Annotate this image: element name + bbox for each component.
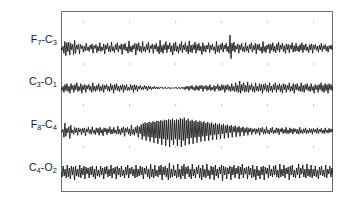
channel-label-f7-c3-sub2: 3 xyxy=(53,38,57,47)
channel-label-c4-o2-mid: -O xyxy=(41,161,53,173)
channel-label-f8-c4-sub1: 8 xyxy=(37,123,41,132)
channel-label-c3-o1: C3-O1 xyxy=(5,76,57,87)
channel-label-f8-c4: F8-C4 xyxy=(5,119,57,130)
channel-label-c4-o2: C4-O2 xyxy=(5,162,57,173)
channel-label-c4-o2-main: C xyxy=(29,161,37,173)
channel-label-f7-c3: F7-C3 xyxy=(5,34,57,45)
channel-label-c4-o2-sub2: 2 xyxy=(53,166,57,175)
plot-frame xyxy=(61,11,333,192)
channel-label-f8-c4-sub2: 4 xyxy=(53,123,57,132)
channel-label-c4-o2-sub1: 4 xyxy=(37,166,41,175)
channel-label-c3-o1-sub2: 1 xyxy=(53,80,57,89)
channel-label-c3-o1-sub1: 3 xyxy=(37,80,41,89)
channel-label-f8-c4-mid: -C xyxy=(41,118,52,130)
channel-label-f7-c3-sub1: 7 xyxy=(37,38,41,47)
channel-label-c3-o1-mid: -O xyxy=(41,75,53,87)
channel-label-c3-o1-main: C xyxy=(29,75,37,87)
channel-label-f7-c3-mid: -C xyxy=(41,33,52,45)
eeg-figure: F7-C3 C3-O1 F8-C4 C4-O2 xyxy=(0,0,346,206)
